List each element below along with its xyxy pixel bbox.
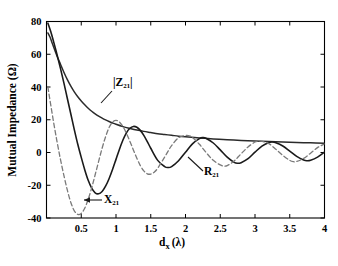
x-tick-label: 1.5 xyxy=(144,223,157,234)
r21-label: R₂₁ xyxy=(204,165,219,177)
y-tick-label: 80 xyxy=(31,16,42,27)
x21-label: X₂₁ xyxy=(104,193,119,205)
y-tick-label: 20 xyxy=(31,114,42,125)
x-tick-label: 3.5 xyxy=(283,223,296,234)
x-tick-label: 4 xyxy=(322,223,328,234)
x-tick-label: 2.5 xyxy=(214,223,227,234)
x-tick-label: 2 xyxy=(183,223,188,234)
mutual-impedance-chart: 0.511.522.533.54 -40-20020406080 |Z₂₁|R₂… xyxy=(0,0,338,266)
x-tick-label: 1 xyxy=(113,223,118,234)
x-axis-label-unit: (λ) xyxy=(172,236,185,249)
y-tick-label: -20 xyxy=(28,180,42,191)
y-tick-label: -40 xyxy=(28,213,42,224)
y-tick-label: 40 xyxy=(31,82,42,93)
y-tick-label: 60 xyxy=(31,49,42,60)
z21-label: |Z₂₁| xyxy=(113,76,133,89)
x-tick-label: 0.5 xyxy=(75,223,88,234)
y-tick-label: 0 xyxy=(36,147,41,158)
y-axis-label: Mutual Impedance (Ω) xyxy=(6,63,19,177)
x-tick-label: 3 xyxy=(252,223,257,234)
